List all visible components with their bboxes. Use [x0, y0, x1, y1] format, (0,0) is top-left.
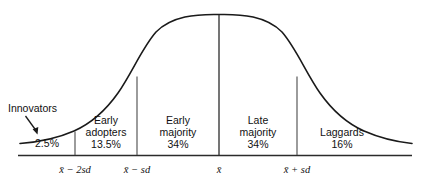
- axis-tick-mean: x̄: [216, 164, 222, 175]
- axis-tick-minus-1sd: x̄ − sd: [123, 164, 151, 175]
- segment-percent-early-majority: 34%: [167, 138, 188, 150]
- segment-name-laggards-line1: Laggards: [320, 126, 364, 138]
- segment-percent-laggards: 16%: [331, 138, 352, 150]
- axis-tick-plus-1sd: x̄ + sd: [283, 164, 311, 175]
- segment-name-late-majority-line2: majority: [240, 126, 278, 138]
- adoption-curve-figure: Innovators 2.5% Early adopters 13.5% Ear…: [0, 0, 428, 185]
- normal-distribution-svg: Innovators 2.5% Early adopters 13.5% Ear…: [0, 0, 428, 185]
- segment-name-early-adopters-line1: Early: [94, 114, 119, 126]
- segment-percent-late-majority: 34%: [247, 138, 268, 150]
- segment-name-early-majority-line2: majority: [160, 126, 198, 138]
- innovators-arrow-icon: [26, 116, 39, 135]
- segment-name-early-majority-line1: Early: [166, 114, 191, 126]
- callout-label-innovators: Innovators: [8, 102, 57, 114]
- segment-name-early-adopters-line2: adopters: [86, 126, 127, 138]
- axis-tick-minus-2sd: x̄ − 2sd: [58, 164, 91, 175]
- segment-percent-innovators: 2.5%: [35, 137, 59, 149]
- bell-curve-path: [20, 14, 412, 143]
- segment-percent-early-adopters: 13.5%: [91, 138, 121, 150]
- segment-name-late-majority-line1: Late: [248, 114, 269, 126]
